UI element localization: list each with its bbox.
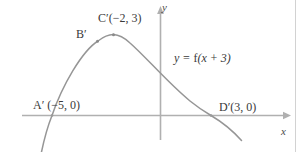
point-marker-d bbox=[210, 114, 213, 117]
point-label-a: A′ (−5, 0) bbox=[33, 99, 80, 111]
equation-lhs: y = bbox=[174, 51, 193, 65]
point-marker-b bbox=[96, 40, 99, 43]
point-marker-a bbox=[51, 114, 54, 117]
point-label-d: D′(3, 0) bbox=[219, 101, 256, 113]
point-label-b: B′ bbox=[76, 28, 87, 40]
equation-rhs: (x + 3) bbox=[197, 51, 230, 65]
point-marker-c bbox=[112, 33, 115, 36]
y-axis-label: y bbox=[162, 2, 167, 13]
point-label-c: C′(−2, 3) bbox=[98, 12, 141, 24]
graph-canvas bbox=[0, 0, 300, 152]
x-axis-arrowhead-icon bbox=[283, 112, 291, 119]
graph-figure: y x C′(−2, 3) B′ A′ (−5, 0) D′(3, 0) y =… bbox=[0, 0, 300, 152]
curve-equation-label: y = f(x + 3) bbox=[174, 52, 231, 64]
x-axis-label: x bbox=[281, 126, 286, 137]
